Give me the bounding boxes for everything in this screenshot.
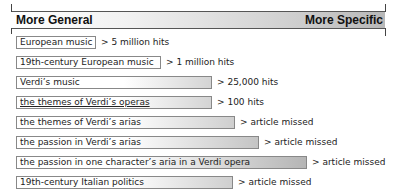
query-box: the themes of Verdi’s operas xyxy=(16,96,212,109)
left-bottom-tick xyxy=(11,28,12,34)
query-box: 19th-century Italian politics xyxy=(16,176,233,189)
result-text: > 1 million hits xyxy=(166,57,234,67)
query-box: European music xyxy=(16,36,96,49)
query-row: the passion in one character’s aria in a… xyxy=(16,155,385,169)
left-top-tick xyxy=(11,4,12,12)
result-text: > 25,000 hits xyxy=(217,77,278,87)
result-text: > 100 hits xyxy=(217,97,264,107)
result-text: > article missed xyxy=(238,177,311,187)
right-bottom-tick xyxy=(385,28,386,36)
result-text: > 5 million hits xyxy=(101,37,169,47)
query-box: the passion in one character’s aria in a… xyxy=(16,156,307,169)
right-top-tick xyxy=(385,4,386,12)
query-box: 19th-century European music xyxy=(16,56,161,69)
query-row: 19th-century European music > 1 million … xyxy=(16,55,234,69)
result-text: > article missed xyxy=(264,137,337,147)
query-box: the themes of Verdi’s arias xyxy=(16,116,235,129)
query-row: European music > 5 million hits xyxy=(16,35,169,49)
query-row: Verdi’s music > 25,000 hits xyxy=(16,75,278,89)
query-row: 19th-century Italian politics > article … xyxy=(16,175,311,189)
query-row: the themes of Verdi’s arias > article mi… xyxy=(16,115,313,129)
query-box: Verdi’s music xyxy=(16,76,212,89)
more-specific-label: More Specific xyxy=(305,13,383,27)
query-row: the themes of Verdi’s operas > 100 hits xyxy=(16,95,264,109)
result-text: > article missed xyxy=(312,157,385,167)
query-row: the passion in Verdi’s arias > article m… xyxy=(16,135,337,149)
more-general-label: More General xyxy=(16,13,93,27)
query-box: the passion in Verdi’s arias xyxy=(16,136,259,149)
result-text: > article missed xyxy=(240,117,313,127)
